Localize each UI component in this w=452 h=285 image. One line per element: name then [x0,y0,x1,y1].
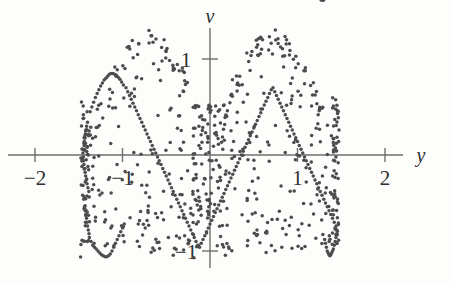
scatter-point [81,158,85,162]
scatter-point [298,154,302,158]
scatter-point [325,186,329,190]
scatter-point [213,203,217,207]
scatter-point [203,177,207,181]
scatter-point [210,219,214,223]
scatter-point [87,190,91,194]
scatter-point [182,248,186,252]
y-axis-label: v [206,5,215,27]
scatter-point [240,213,244,217]
scatter-point [216,137,220,141]
scatter-point [276,217,280,221]
scatter-point [247,60,251,64]
scatter-point [318,199,322,203]
scatter-point [147,41,151,45]
scatter-point [89,126,93,130]
scatter-point [161,167,165,171]
scatter-point [206,209,210,213]
scatter-point [164,50,168,54]
scatter-point [149,140,153,144]
y-tick-label: −1 [175,240,197,264]
x-tick-label: −2 [24,166,46,190]
scatter-point [235,89,239,93]
scatter-point [236,161,240,165]
scatter-point [271,86,275,90]
scatter-point [332,144,336,148]
scatter-point [124,86,128,90]
scatter-point [246,244,250,248]
scatter-point [224,172,228,176]
scatter-point [283,35,287,39]
scatter-point [219,209,223,213]
scatter-point [201,118,205,122]
scatter-point [331,242,335,246]
scatter-point [197,144,201,148]
scatter-point [230,148,234,152]
scatter-point [335,120,339,124]
scatter-point [128,104,132,108]
scatter-point [85,150,89,154]
scatter-point [217,143,221,147]
scatter-point [264,251,268,255]
scatter-point [278,209,282,213]
scatter-point [181,66,185,70]
scatter-point [333,226,337,230]
scatter-point [147,29,151,33]
scatter-point [101,116,105,120]
scatter-point [246,220,250,224]
scatter-point [309,84,313,88]
scatter-point [333,189,337,193]
scatter-point [285,38,289,42]
scatter-point [130,91,134,95]
scatter-point [85,145,89,149]
scatter-point [226,184,230,188]
scatter-point [135,75,139,79]
scatter-point [178,94,182,98]
scatter-point [192,233,196,237]
scatter-point [218,175,222,179]
scatter-point [299,147,303,151]
scatter-point [147,224,151,228]
scatter-point [141,233,145,237]
scatter-point [245,51,249,55]
scatter-point [320,194,324,198]
scatter-point [232,140,236,144]
scatter-point [212,215,216,219]
scatter-point [192,126,196,130]
scatter-point [254,211,258,215]
scatter-point [206,137,210,141]
scatter-point [246,93,250,97]
scatter-point [145,184,149,188]
scatter-point [303,245,307,249]
scatter-point [85,110,89,114]
scatter-point [231,78,235,82]
scatter-point [331,208,335,212]
scatter-point [113,65,117,69]
scatter-point [284,233,288,237]
scatter-point [273,249,277,253]
scatter-point [279,45,283,49]
scatter-point [299,94,303,98]
scatter-point [282,109,286,113]
scatter-point [310,171,314,175]
scatter-point [84,158,88,162]
scatter-point [255,197,259,201]
scatter-point [86,121,90,125]
x-tick-label: 2 [380,166,391,190]
scatter-point [90,105,94,109]
scatter-point [260,47,264,51]
scatter-point [336,177,340,181]
scatter-point [119,230,123,234]
scatter-point [109,226,113,230]
scatter-point [311,93,315,97]
scatter-point [87,133,91,137]
scatter-point [255,39,259,43]
scatter-point [318,109,322,113]
scatter-point [140,77,144,81]
y-axis-ticks: 1−1 [175,48,218,264]
scatter-point [116,68,120,72]
scatter-point [296,62,300,65]
scatter-point [88,236,92,240]
scatter-point [107,178,111,182]
scatter-point [111,106,115,110]
scatter-point [312,174,316,178]
